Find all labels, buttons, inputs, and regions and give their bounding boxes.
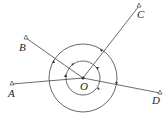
label-b: B bbox=[19, 42, 26, 53]
label-o: O bbox=[80, 81, 88, 92]
point-a-marker bbox=[10, 81, 14, 85]
ray-ob bbox=[26, 38, 83, 78]
point-b-marker bbox=[24, 35, 28, 39]
label-d: D bbox=[152, 95, 160, 106]
ray-oa bbox=[12, 78, 83, 84]
label-c: C bbox=[137, 9, 144, 20]
arrow-icon bbox=[52, 60, 55, 63]
label-a: A bbox=[8, 88, 15, 99]
arrow-icon bbox=[96, 67, 99, 70]
point-c-marker bbox=[137, 3, 141, 7]
geometry-diagram: O A B C D bbox=[0, 0, 168, 116]
ray-oc bbox=[83, 6, 139, 78]
